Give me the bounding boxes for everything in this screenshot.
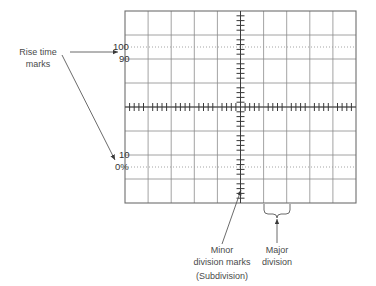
scale-label-0-percent: 0%: [115, 161, 129, 172]
graticule-diagram: [0, 0, 376, 286]
major-division-label-line1: Major: [247, 245, 307, 256]
rise-time-marks-label-line2: marks: [8, 59, 68, 70]
minor-division-leader-line: [222, 190, 241, 244]
major-division-label-line2: division: [247, 257, 307, 268]
rise-time-leader-lower: [62, 55, 115, 160]
rise-time-marks-label-line1: Rise time: [8, 47, 68, 58]
scale-label-90: 90: [119, 53, 130, 64]
scale-label-10: 10: [119, 149, 130, 160]
minor-division-label-line3: (Subdivision): [168, 271, 276, 282]
scale-label-100: 100: [113, 41, 129, 52]
rise-time-leader-lines: [62, 52, 118, 160]
rise-time-graticule-figure: 100 90 10 0% Rise time marks Minor divis…: [0, 0, 376, 286]
major-division-brace: [264, 204, 290, 218]
